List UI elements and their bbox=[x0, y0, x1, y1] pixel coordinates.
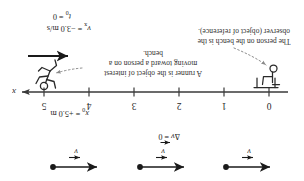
v-subscript: x bbox=[84, 22, 87, 29]
t-symbol: t bbox=[69, 12, 71, 21]
velocity-annotation: vx = −3.0 m/s bbox=[47, 22, 91, 33]
axis-tick-label-1: 1 bbox=[217, 100, 231, 111]
axis-tick-label-0: 0 bbox=[262, 100, 276, 111]
axis-tick-label-3: 3 bbox=[127, 100, 141, 111]
velocity-vector-label-3: v bbox=[74, 147, 78, 156]
axis-tick-label-4: 4 bbox=[82, 100, 96, 111]
axis-tick-label-2: 2 bbox=[172, 100, 186, 111]
delta-symbol: Δ bbox=[175, 132, 180, 141]
velocity-vector-label-2: v bbox=[161, 147, 165, 156]
delta-v-value: = 0 bbox=[158, 132, 169, 141]
physics-diagram: v v v Δv = 0 x0 = +5.0 m 0 1 2 3 4 5 x A… bbox=[0, 0, 304, 181]
velocity-vector-label-1: v bbox=[247, 147, 251, 156]
initial-time-annotation: t0 = 0 bbox=[53, 10, 71, 21]
observer-caption: The person on the bench is the observer … bbox=[196, 26, 292, 46]
x-axis-label: x bbox=[12, 86, 16, 97]
runner-caption: A runner is the object of interest movin… bbox=[98, 48, 208, 78]
v-value: = −3.0 m/s bbox=[47, 24, 82, 33]
t-subscript: 0 bbox=[66, 10, 69, 17]
text-layer: v v v Δv = 0 x0 = +5.0 m 0 1 2 3 4 5 x A… bbox=[0, 0, 304, 181]
delta-v-equation: Δv = 0 bbox=[158, 131, 180, 141]
v-symbol: v bbox=[87, 24, 91, 33]
axis-tick-label-5: 5 bbox=[37, 100, 51, 111]
x-value: = +5.0 m bbox=[50, 109, 80, 118]
delta-v-glyph: v bbox=[171, 132, 175, 141]
t-value: = 0 bbox=[53, 12, 64, 21]
